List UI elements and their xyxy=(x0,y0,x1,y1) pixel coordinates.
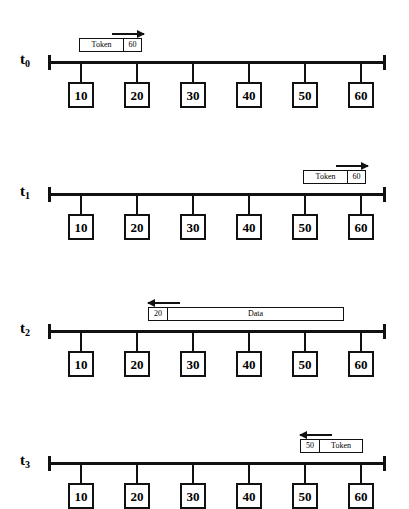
station-box-40-t0[interactable]: 40 xyxy=(236,82,262,108)
bus-end-cap-left-t3 xyxy=(48,456,51,471)
station-stem-20-t2 xyxy=(136,332,138,351)
time-label-t2-subscript: 2 xyxy=(25,327,30,338)
station-box-20-t2[interactable]: 20 xyxy=(124,351,150,377)
time-label-t0-subscript: 0 xyxy=(25,58,30,69)
station-box-10-t0[interactable]: 10 xyxy=(68,82,94,108)
direction-arrow-t2 xyxy=(148,298,180,307)
station-box-10-t3[interactable]: 10 xyxy=(68,483,94,509)
frame-cell-address: 50 xyxy=(301,440,319,452)
station-box-30-t3[interactable]: 30 xyxy=(180,483,206,509)
station-label: 30 xyxy=(187,221,200,234)
station-stem-10-t2 xyxy=(80,332,82,351)
bus-line-t2 xyxy=(48,330,386,333)
station-label: 60 xyxy=(355,358,368,371)
station-box-50-t1[interactable]: 50 xyxy=(292,214,318,240)
bus-end-cap-right-t0 xyxy=(383,55,386,70)
token-frame-t1[interactable]: Token 60 xyxy=(303,170,366,184)
station-label: 40 xyxy=(243,221,256,234)
time-label-t2: t2 xyxy=(20,321,30,338)
data-frame-t2[interactable]: 20 Data xyxy=(148,307,344,321)
time-label-t0: t0 xyxy=(20,52,30,69)
station-stem-20-t0 xyxy=(136,63,138,82)
station-box-50-t0[interactable]: 50 xyxy=(292,82,318,108)
station-label: 10 xyxy=(75,358,88,371)
station-label: 50 xyxy=(299,89,312,102)
time-label-t3: t3 xyxy=(20,453,30,470)
bus-line-t0 xyxy=(48,61,386,64)
station-label: 20 xyxy=(131,221,144,234)
station-stem-50-t1 xyxy=(304,195,306,214)
station-label: 30 xyxy=(187,490,200,503)
station-label: 10 xyxy=(75,89,88,102)
station-stem-30-t2 xyxy=(192,332,194,351)
frame-cell-label: Token xyxy=(304,171,347,183)
station-box-60-t3[interactable]: 60 xyxy=(348,483,374,509)
station-stem-60-t2 xyxy=(360,332,362,351)
frame-cell-label: Token xyxy=(319,440,362,452)
station-label: 60 xyxy=(355,221,368,234)
station-box-20-t0[interactable]: 20 xyxy=(124,82,150,108)
station-stem-10-t0 xyxy=(80,63,82,82)
station-label: 10 xyxy=(75,221,88,234)
station-label: 10 xyxy=(75,490,88,503)
arrow-head-left-icon xyxy=(147,299,155,307)
frame-cell-address: 20 xyxy=(149,308,167,320)
arrow-head-right-icon xyxy=(361,162,369,170)
station-label: 60 xyxy=(355,490,368,503)
station-box-30-t2[interactable]: 30 xyxy=(180,351,206,377)
station-box-30-t1[interactable]: 30 xyxy=(180,214,206,240)
direction-arrow-t3 xyxy=(300,430,332,439)
station-stem-10-t3 xyxy=(80,464,82,483)
station-label: 60 xyxy=(355,89,368,102)
station-stem-60-t0 xyxy=(360,63,362,82)
station-label: 40 xyxy=(243,490,256,503)
bus-end-cap-right-t3 xyxy=(383,456,386,471)
station-stem-10-t1 xyxy=(80,195,82,214)
frame-cell-label: Token xyxy=(80,39,123,51)
station-box-50-t2[interactable]: 50 xyxy=(292,351,318,377)
station-box-40-t3[interactable]: 40 xyxy=(236,483,262,509)
bus-end-cap-right-t2 xyxy=(383,324,386,339)
station-stem-60-t1 xyxy=(360,195,362,214)
station-label: 40 xyxy=(243,358,256,371)
station-stem-40-t2 xyxy=(248,332,250,351)
station-stem-40-t1 xyxy=(248,195,250,214)
direction-arrow-t0 xyxy=(112,29,144,38)
station-box-30-t0[interactable]: 30 xyxy=(180,82,206,108)
station-box-60-t1[interactable]: 60 xyxy=(348,214,374,240)
station-box-60-t0[interactable]: 60 xyxy=(348,82,374,108)
station-stem-30-t1 xyxy=(192,195,194,214)
bus-line-t3 xyxy=(48,462,386,465)
token-frame-t3[interactable]: 50 Token xyxy=(300,439,363,453)
station-box-20-t1[interactable]: 20 xyxy=(124,214,150,240)
station-stem-50-t3 xyxy=(304,464,306,483)
station-stem-20-t1 xyxy=(136,195,138,214)
arrow-head-left-icon xyxy=(299,431,307,439)
station-label: 50 xyxy=(299,221,312,234)
bus-end-cap-left-t1 xyxy=(48,187,51,202)
frame-cell-address: 60 xyxy=(123,39,141,51)
station-label: 20 xyxy=(131,490,144,503)
station-stem-50-t0 xyxy=(304,63,306,82)
station-stem-50-t2 xyxy=(304,332,306,351)
arrow-head-right-icon xyxy=(137,30,145,38)
station-box-10-t1[interactable]: 10 xyxy=(68,214,94,240)
station-box-10-t2[interactable]: 10 xyxy=(68,351,94,377)
direction-arrow-t1 xyxy=(336,161,368,170)
station-box-40-t1[interactable]: 40 xyxy=(236,214,262,240)
station-stem-20-t3 xyxy=(136,464,138,483)
bus-end-cap-right-t1 xyxy=(383,187,386,202)
time-label-t1-subscript: 1 xyxy=(25,190,30,201)
station-stem-60-t3 xyxy=(360,464,362,483)
station-box-60-t2[interactable]: 60 xyxy=(348,351,374,377)
station-label: 20 xyxy=(131,358,144,371)
time-label-t3-subscript: 3 xyxy=(25,459,30,470)
station-label: 30 xyxy=(187,358,200,371)
token-frame-t0[interactable]: Token 60 xyxy=(79,38,142,52)
station-label: 50 xyxy=(299,358,312,371)
station-box-50-t3[interactable]: 50 xyxy=(292,483,318,509)
station-box-40-t2[interactable]: 40 xyxy=(236,351,262,377)
time-label-t1: t1 xyxy=(20,184,30,201)
station-stem-40-t0 xyxy=(248,63,250,82)
station-box-20-t3[interactable]: 20 xyxy=(124,483,150,509)
